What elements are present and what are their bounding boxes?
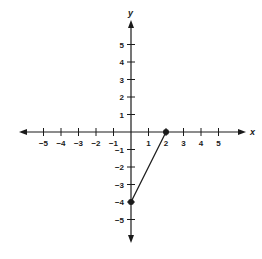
- y-tick-label: 1: [120, 111, 125, 120]
- x-tick-label: 3: [181, 139, 186, 148]
- x-tick-label: −3: [74, 139, 84, 148]
- y-axis-up-arrow-icon: [128, 20, 134, 28]
- x-axis-label: x: [249, 127, 256, 137]
- x-axis-right-arrow-icon: [238, 129, 246, 135]
- y-tick-label: 2: [120, 93, 125, 102]
- y-tick-label: −2: [115, 163, 125, 172]
- data-point-marker: [128, 199, 134, 205]
- x-axis-left-arrow-icon: [19, 129, 27, 135]
- y-tick-label: 5: [120, 41, 125, 50]
- x-tick-label: −2: [91, 139, 101, 148]
- y-axis-label: y: [127, 8, 134, 18]
- x-tick-label: −4: [56, 139, 66, 148]
- x-tick-label: 1: [146, 139, 151, 148]
- x-tick-label: 5: [216, 139, 221, 148]
- x-tick-label: −5: [39, 139, 49, 148]
- y-tick-label: 4: [120, 58, 125, 67]
- y-tick-label: −4: [115, 198, 125, 207]
- coordinate-plane: −5−4−3−2−11234554321−1−2−3−4−5 x y: [0, 0, 262, 259]
- axes: [19, 20, 246, 243]
- y-tick-label: −3: [115, 181, 125, 190]
- data-point-marker: [163, 129, 169, 135]
- x-tick-label: 4: [199, 139, 204, 148]
- y-tick-label: 3: [120, 76, 125, 85]
- y-tick-label: −5: [115, 216, 125, 225]
- x-tick-label: 2: [164, 139, 169, 148]
- y-tick-label: −1: [115, 146, 125, 155]
- y-axis-down-arrow-icon: [128, 235, 134, 243]
